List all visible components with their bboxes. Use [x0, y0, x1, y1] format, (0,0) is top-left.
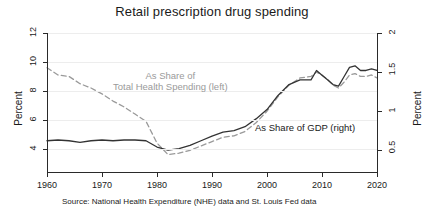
y-tick-label-left-12: 12	[26, 27, 40, 37]
y-tick-left-6	[43, 120, 47, 121]
x-tick-label-2000: 2000	[257, 180, 277, 190]
x-tick-2000	[267, 173, 268, 177]
y-tick-left-4	[43, 149, 47, 150]
y-tick-left-10	[43, 62, 47, 63]
x-tick-label-1990: 1990	[202, 180, 222, 190]
gridline-12	[47, 33, 377, 34]
y-tick-label-left-8: 8	[26, 85, 40, 95]
y-tick-right-2	[378, 33, 382, 34]
annotation-health-line1: As Share of	[113, 70, 228, 81]
y-axis-right-title: Percent	[412, 79, 423, 139]
chart-title: Retail prescription drug spending	[0, 4, 424, 19]
gridline-6	[47, 120, 377, 121]
annotation-share-of-gdp: As Share of GDP (right)	[255, 122, 355, 133]
annotation-total-health-spending: As Share of Total Health Spending (left)	[113, 70, 228, 92]
x-tick-1970	[102, 173, 103, 177]
x-tick-label-2010: 2010	[312, 180, 332, 190]
x-tick-1960	[47, 173, 48, 177]
y-tick-label-left-10: 10	[26, 56, 40, 66]
y-tick-right-0-5	[378, 150, 382, 151]
series-lines	[47, 33, 377, 172]
annotation-health-line2: Total Health Spending (left)	[113, 81, 228, 92]
x-tick-1980	[157, 173, 158, 177]
y-tick-label-right-1: 1	[385, 105, 399, 115]
x-tick-2010	[322, 173, 323, 177]
y-tick-label-left-4: 4	[26, 143, 40, 153]
y-tick-left-8	[43, 91, 47, 92]
y-tick-label-right-0-5: 0.5	[385, 142, 399, 152]
x-tick-1990	[212, 173, 213, 177]
y-tick-label-right-2: 2	[385, 27, 399, 37]
y-tick-label-left-6: 6	[26, 114, 40, 124]
y-tick-left-12	[43, 33, 47, 34]
x-tick-label-2020: 2020	[367, 180, 387, 190]
x-tick-label-1960: 1960	[37, 180, 57, 190]
y-tick-right-1-5	[378, 72, 382, 73]
gridline-10	[47, 62, 377, 63]
y-axis-left-title: Percent	[13, 79, 24, 139]
x-tick-label-1970: 1970	[92, 180, 112, 190]
y-axis-right-line	[377, 33, 378, 173]
source-note: Source: National Health Expenditure (NHE…	[62, 197, 316, 206]
gridline-4	[47, 149, 377, 150]
x-tick-label-1980: 1980	[147, 180, 167, 190]
y-axis-left-line	[47, 33, 48, 173]
x-tick-2020	[377, 173, 378, 177]
y-tick-right-1	[378, 111, 382, 112]
plot-area	[47, 33, 377, 172]
chart-figure: Retail prescription drug spending 12 10 …	[0, 0, 424, 218]
y-tick-label-right-1-5: 1.5	[385, 64, 399, 74]
